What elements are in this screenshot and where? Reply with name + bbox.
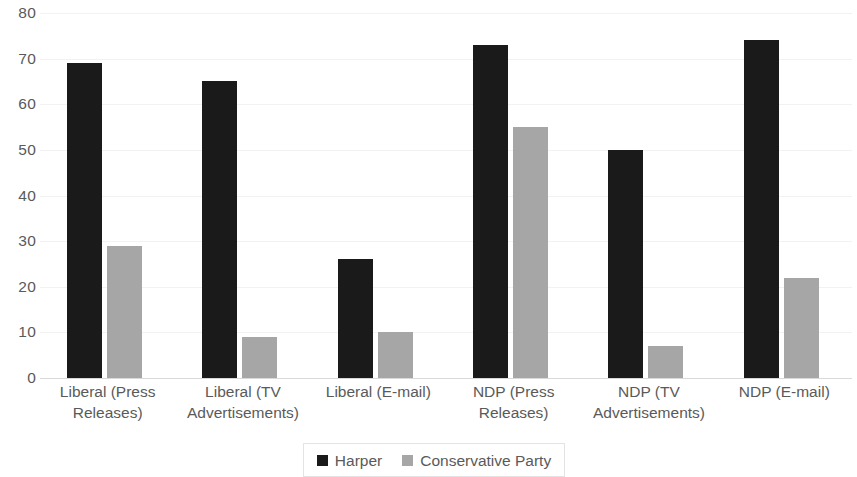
x-axis-labels: Liberal (Press Releases)Liberal (TV Adve… xyxy=(40,381,852,423)
y-axis-tick-label: 60 xyxy=(2,96,36,112)
bar-group xyxy=(175,13,310,378)
y-axis-tick-label: 80 xyxy=(2,5,36,21)
y-axis: 80706050403020100 xyxy=(0,0,36,473)
y-axis-tick-label: 0 xyxy=(2,370,36,386)
legend-label: Harper xyxy=(335,452,382,469)
bar-1-0 xyxy=(107,246,142,378)
x-axis-category-label: NDP (E-mail) xyxy=(717,381,852,423)
y-axis-tick-label: 70 xyxy=(2,51,36,67)
legend-swatch-icon xyxy=(317,455,328,466)
bar-0-0 xyxy=(67,63,102,378)
x-axis-category-label: Liberal (TV Advertisements) xyxy=(175,381,310,423)
x-axis-line xyxy=(40,378,852,379)
y-axis-tick-label: 30 xyxy=(2,233,36,249)
bar-group xyxy=(40,13,175,378)
bar-1-3 xyxy=(513,127,548,378)
x-axis-category-label: NDP (Press Releases) xyxy=(446,381,581,423)
bar-0-3 xyxy=(473,45,508,378)
bar-group xyxy=(446,13,581,378)
x-axis-category-label: NDP (TV Advertisements) xyxy=(581,381,716,423)
y-axis-tick-label: 40 xyxy=(2,188,36,204)
legend-item[interactable]: Harper xyxy=(317,452,382,469)
x-axis-category-label: Liberal (E-mail) xyxy=(311,381,446,423)
bar-group xyxy=(581,13,716,378)
chart-legend: HarperConservative Party xyxy=(303,443,565,477)
bar-1-2 xyxy=(378,332,413,378)
x-axis-category-label: Liberal (Press Releases) xyxy=(40,381,175,423)
bar-groups xyxy=(40,13,852,378)
bar-group xyxy=(311,13,446,378)
y-axis-tick-label: 20 xyxy=(2,279,36,295)
bar-0-5 xyxy=(744,40,779,378)
legend-item[interactable]: Conservative Party xyxy=(402,452,551,469)
bar-1-1 xyxy=(242,337,277,378)
bar-1-5 xyxy=(784,278,819,378)
legend-label: Conservative Party xyxy=(420,452,551,469)
y-axis-tick-label: 10 xyxy=(2,324,36,340)
bar-group xyxy=(717,13,852,378)
bar-0-1 xyxy=(202,81,237,378)
legend-swatch-icon xyxy=(402,455,413,466)
bar-0-4 xyxy=(608,150,643,378)
y-axis-tick-label: 50 xyxy=(2,142,36,158)
bar-0-2 xyxy=(338,259,373,378)
bar-1-4 xyxy=(648,346,683,378)
